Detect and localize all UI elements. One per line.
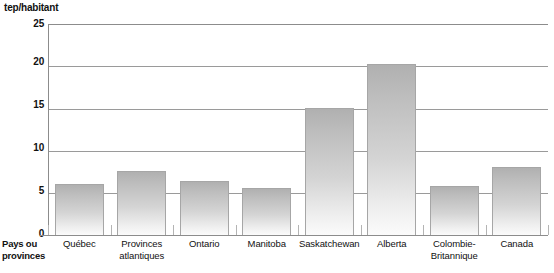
y-tick-25: 25 [4,19,44,29]
x-tickmark [423,225,424,235]
bar-slot [361,24,424,235]
bar-slot [173,24,236,235]
x-axis-title-line1: Pays ou [2,238,37,249]
x-label-line1: Canada [500,238,533,249]
bar-saskatchewan [305,108,354,235]
x-label-line1: Québec [63,238,96,249]
y-tick-20: 20 [4,57,44,67]
bars-layer [48,24,548,235]
bar-slot [423,24,486,235]
x-label-line2: atlantiques [101,250,184,262]
x-axis-title-line2: provinces [2,250,45,261]
bar-canada [492,167,541,235]
bar-alberta [367,64,416,235]
x-tickmark [236,225,237,235]
x-tickmark [361,225,362,235]
x-tickmark [548,225,549,235]
x-axis-line [40,235,548,236]
bar-chart: tep/habitant 25 20 15 10 5 0 Pays ou pro… [0,0,554,273]
x-tickmark [298,225,299,235]
bar-slot [236,24,299,235]
y-axis-tick-labels: 25 20 15 10 5 0 [0,0,44,273]
bar-manitoba [242,188,291,235]
x-label-line1: Ontario [189,238,219,249]
x-label-line1: Colombie- [433,238,475,249]
x-label-canada: Canada [476,238,554,250]
y-tick-10: 10 [4,143,44,153]
x-label-line1: Manitoba [248,238,286,249]
x-label-line1: Alberta [377,238,406,249]
x-tickmark [111,225,112,235]
bar-slot [111,24,174,235]
bar-slot [298,24,361,235]
bar-colombie-britannique [430,186,479,235]
bar-provinces-atlantiques [117,171,166,235]
x-tickmark [486,225,487,235]
x-axis-labels: QuébecProvincesatlantiquesOntarioManitob… [48,238,548,273]
x-tickmark [48,225,49,235]
x-tickmark [173,225,174,235]
bar-slot [486,24,549,235]
bar-slot [48,24,111,235]
x-label-line2: Britannique [413,250,496,262]
y-tick-15: 15 [4,100,44,110]
bar-qu-bec [55,184,104,235]
y-tick-5: 5 [4,186,44,196]
bar-ontario [180,181,229,235]
x-label-line1: Provinces [121,238,162,249]
